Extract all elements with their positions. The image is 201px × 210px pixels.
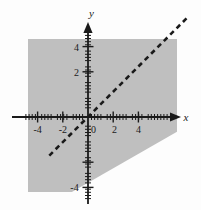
x-tick-label-neg4: -4 [33, 124, 41, 135]
y-tick-label-2: 2 [74, 67, 79, 78]
graph-figure: x y -4 -2 2 4 0 4 2 -4 [0, 0, 201, 210]
x-tick-label-2: 2 [112, 124, 117, 135]
x-tick-label-neg2: -2 [59, 124, 67, 135]
x-tick-label-4: 4 [136, 124, 141, 135]
origin-label: 0 [91, 124, 96, 135]
x-axis-label: x [183, 111, 189, 123]
y-tick-label-4: 4 [74, 42, 79, 53]
coordinate-plane: x y -4 -2 2 4 0 4 2 -4 [0, 0, 201, 210]
y-tick-label-neg4: -4 [70, 182, 78, 193]
y-axis-label: y [88, 7, 94, 19]
y-axis-arrowhead [83, 22, 92, 33]
